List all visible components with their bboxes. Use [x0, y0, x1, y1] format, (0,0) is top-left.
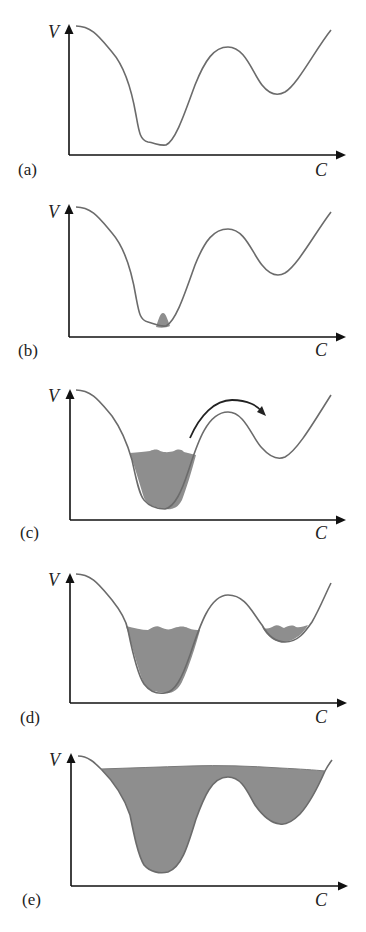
fill-region — [101, 766, 325, 873]
x-axis-arrowhead — [336, 333, 346, 342]
potential-curve — [76, 26, 331, 145]
y-axis-label: V — [48, 386, 59, 407]
panel-label: (b) — [18, 341, 38, 361]
fill-region-shallow — [262, 625, 308, 642]
potential-curve — [76, 207, 331, 326]
y-axis-label: V — [49, 750, 60, 771]
x-axis-label: C — [315, 523, 327, 544]
x-axis-label: C — [315, 890, 327, 911]
panel-e: V C (e) — [0, 735, 366, 932]
panel-d: V C (d) — [0, 550, 366, 735]
potential-curve — [76, 390, 331, 509]
y-axis-arrowhead — [67, 753, 76, 763]
x-axis-arrowhead — [336, 151, 346, 160]
y-axis-arrowhead — [65, 24, 74, 34]
y-axis-arrowhead — [66, 573, 75, 583]
panel-label: (a) — [18, 160, 37, 180]
y-axis-arrowhead — [66, 389, 75, 399]
x-axis-label: C — [315, 160, 327, 181]
panel-label: (d) — [20, 708, 40, 728]
panel-label: (e) — [22, 890, 41, 910]
panel-b: V C (b) — [0, 185, 366, 360]
x-axis-arrowhead — [336, 516, 346, 525]
x-axis-label: C — [315, 340, 327, 361]
y-axis-label: V — [48, 202, 59, 223]
y-axis-label: V — [48, 22, 59, 43]
panel-c: V C (c) — [0, 360, 366, 550]
panel-a: V C (a) — [0, 0, 366, 185]
y-axis-label: V — [48, 570, 59, 591]
x-axis-arrowhead — [338, 882, 348, 891]
panel-label: (c) — [20, 523, 39, 543]
x-axis-arrowhead — [337, 699, 347, 708]
x-axis-label: C — [315, 707, 327, 728]
y-axis-arrowhead — [65, 204, 74, 214]
